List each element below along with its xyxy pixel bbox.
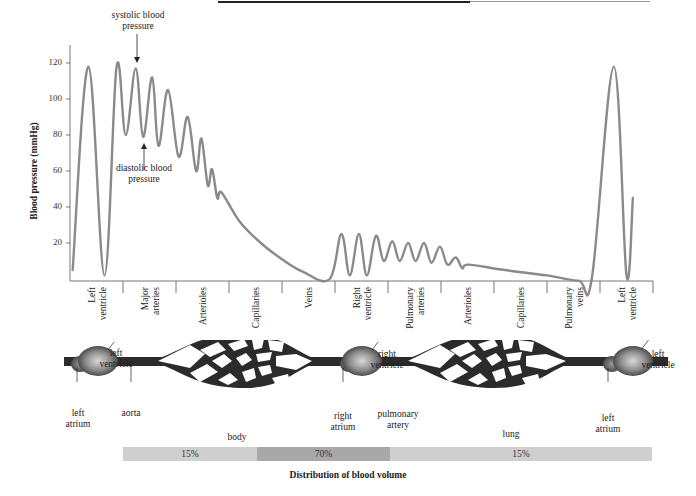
blood-pressure-figure: Blood pressure (mmHg) 20406080100120 Lef… <box>0 0 696 496</box>
diastolic-annotation: diastolic blood pressure <box>106 163 182 184</box>
x-category-label: Arterioles <box>178 287 228 347</box>
lung-capillary-bed <box>390 340 585 388</box>
y-tick-label: 40 <box>38 201 62 211</box>
x-category-label: Pulmonaryveins <box>549 287 599 347</box>
y-tick-label: 60 <box>38 165 62 175</box>
distribution-segment: 15% <box>390 447 652 461</box>
x-category-label: Majorarteries <box>125 287 175 347</box>
y-tick-label: 120 <box>38 57 62 67</box>
distribution-segment: 15% <box>123 447 257 461</box>
label-right-atrium: right atrium <box>323 411 363 432</box>
label-left-ventricle-1: left ventricle <box>96 348 136 369</box>
label-left-atrium-2: left atrium <box>586 413 630 434</box>
label-body: body <box>217 432 257 443</box>
distribution-title: Distribution of blood volume <box>0 470 696 480</box>
label-aorta: aorta <box>111 408 151 419</box>
label-pulmonary-artery: pulmonary artery <box>370 409 426 430</box>
y-tick-label: 20 <box>38 237 62 247</box>
x-category-label: Rightventricle <box>337 287 387 347</box>
label-left-atrium-1: left atrium <box>58 408 98 429</box>
x-category-label: Pulmonaryarteries <box>390 287 440 347</box>
x-category-label: Capillaries <box>496 287 546 347</box>
x-category-label: Arterioles <box>443 287 493 347</box>
systolic-annotation: systolic blood pressure <box>100 10 176 31</box>
x-category-label: Veins <box>284 287 334 347</box>
body-capillary-bed <box>140 340 330 388</box>
label-right-ventricle: right ventricle <box>365 349 409 370</box>
distribution-segment: 70% <box>257 447 390 461</box>
x-category-label: Leftventricle <box>72 287 122 347</box>
x-category-label: Leftventricle <box>602 287 652 347</box>
x-category-label: Capillaries <box>231 287 281 347</box>
y-tick-label: 100 <box>38 93 62 103</box>
label-lung: lung <box>496 429 526 440</box>
label-left-ventricle-2: left ventricle <box>636 349 680 370</box>
y-tick-label: 80 <box>38 129 62 139</box>
